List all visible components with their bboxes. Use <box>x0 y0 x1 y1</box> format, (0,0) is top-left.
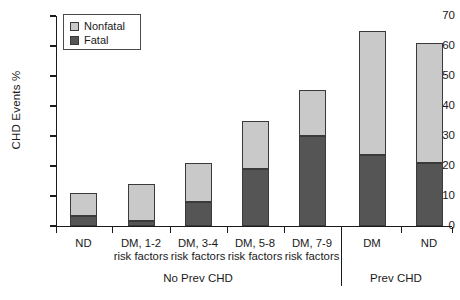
bar-segment-fatal-3 <box>242 169 269 226</box>
bar-segment-nonfatal-4 <box>299 90 326 137</box>
x-tick-1 <box>112 227 113 233</box>
y-tick-50 <box>50 75 56 76</box>
bar-segment-fatal-6 <box>416 163 443 226</box>
x-tick-7 <box>452 227 453 233</box>
y-tick-10 <box>50 195 56 196</box>
legend-item-nonfatal: Nonfatal <box>70 21 125 32</box>
legend-swatch-fatal-icon <box>70 36 79 45</box>
bar-segment-nonfatal-1 <box>128 184 155 221</box>
legend: Nonfatal Fatal <box>63 14 141 50</box>
bar-segment-fatal-5 <box>359 155 386 226</box>
x-tick-6 <box>401 227 402 233</box>
category-label-6-line-0: ND <box>389 237 460 250</box>
bar-1 <box>128 184 155 226</box>
bar-0 <box>70 193 97 226</box>
y-tick-40 <box>50 105 56 106</box>
bar-2 <box>185 163 212 226</box>
bar-4 <box>299 90 326 227</box>
x-tick-3 <box>227 227 228 233</box>
bar-segment-fatal-2 <box>185 202 212 226</box>
legend-item-fatal: Fatal <box>70 35 108 46</box>
category-label-6: ND <box>389 237 460 250</box>
legend-label-fatal: Fatal <box>84 35 108 46</box>
group-label-0: No Prev CHD <box>128 272 268 284</box>
bar-segment-fatal-4 <box>299 136 326 226</box>
x-tick-2 <box>170 227 171 233</box>
bar-segment-nonfatal-2 <box>185 163 212 202</box>
y-tick-20 <box>50 165 56 166</box>
bar-segment-nonfatal-6 <box>416 43 443 163</box>
x-axis-line <box>56 226 452 227</box>
group-label-1: Prev CHD <box>341 272 451 284</box>
y-axis-title: CHD Events % <box>10 50 22 170</box>
y-tick-70 <box>50 15 56 16</box>
legend-swatch-nonfatal-icon <box>70 22 79 31</box>
y-tick-label-70: 70 <box>409 10 455 22</box>
bar-3 <box>242 121 269 226</box>
bar-5 <box>359 31 386 226</box>
y-axis-line <box>56 16 57 227</box>
bar-segment-fatal-0 <box>70 216 97 226</box>
bar-segment-nonfatal-5 <box>359 31 386 155</box>
x-tick-0 <box>56 227 57 233</box>
y-tick-60 <box>50 45 56 46</box>
legend-label-nonfatal: Nonfatal <box>84 21 125 32</box>
bar-segment-nonfatal-0 <box>70 193 97 216</box>
y-tick-30 <box>50 135 56 136</box>
x-tick-4 <box>284 227 285 233</box>
bar-6 <box>416 43 443 226</box>
bar-segment-nonfatal-3 <box>242 121 269 169</box>
